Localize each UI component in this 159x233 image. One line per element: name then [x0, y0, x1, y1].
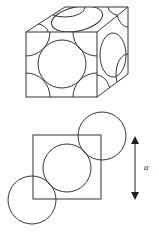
side-face-atoms: [83, 0, 140, 119]
fcc-diagram: a: [0, 0, 159, 233]
face-diagonal-view: a: [8, 112, 149, 224]
fcc-unit-cell: [2, 0, 148, 121]
dimension-arrow: [131, 136, 139, 200]
front-face-atoms: [2, 8, 121, 121]
atom-corner-bottom-left: [8, 176, 56, 224]
dimension-label: a: [144, 162, 149, 172]
